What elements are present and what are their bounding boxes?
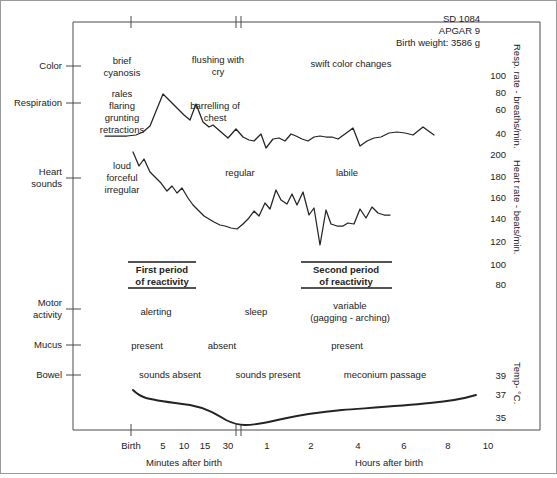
annotation-motor-sleep: sleep <box>245 306 268 318</box>
xtick-6-hr: 6 <box>401 440 406 452</box>
annotation-barrelling-of-chest-line1: barrelling of <box>190 100 240 112</box>
chart-canvas: SD 1084 APGAR 9 Birth weight: 3586 g Col… <box>0 0 557 478</box>
xtick-4-hr: 4 <box>355 440 360 452</box>
xtick-1-hr: 1 <box>264 440 269 452</box>
header-apgar: APGAR 9 <box>300 25 480 37</box>
temp-tick-35: 35 <box>478 412 506 424</box>
annotation-irregular: irregular <box>105 184 140 196</box>
annotation-swift-color-changes: swift color changes <box>311 58 392 70</box>
period-two-label-line1: Second period <box>313 264 379 276</box>
xaxis-caption-hours: Hours after birth <box>355 457 423 469</box>
resp-tick-100: 100 <box>478 70 506 82</box>
annotation-bowel-sounds-absent: sounds absent <box>139 369 201 381</box>
heart-tick-180: 180 <box>478 171 506 183</box>
annotation-brief-cyanosis-line2: cyanosis <box>104 67 141 79</box>
annotation-mucus-present-second: present <box>331 340 363 352</box>
temp-axis-title: Temp- °C. <box>512 362 523 404</box>
chart-vector-layer <box>0 0 557 478</box>
xtick-5-min: 5 <box>160 440 165 452</box>
heart-tick-200: 200 <box>478 149 506 161</box>
row-label-heart-sounds-line2: sounds <box>0 178 62 190</box>
annotation-forceful: forceful <box>106 172 137 184</box>
annotation-flushing-with-cry-line2: cry <box>212 66 225 78</box>
row-label-mucus: Mucus <box>0 339 62 351</box>
annotation-regular: regular <box>225 167 255 179</box>
heart-tick-100: 100 <box>478 259 506 271</box>
heart-rate-curve <box>133 152 390 245</box>
resp-axis-title: Resp. rate - breaths/min. <box>512 44 523 149</box>
xtick-15-min: 15 <box>200 440 211 452</box>
xtick-10-hr: 10 <box>483 440 494 452</box>
temperature-curve <box>133 390 476 425</box>
row-label-color: Color <box>0 60 62 72</box>
row-label-motor-activity-line2: activity <box>0 309 62 321</box>
annotation-bowel-sounds-present: sounds present <box>236 369 301 381</box>
row-label-heart-sounds-line1: Heart <box>0 166 62 178</box>
resp-tick-40: 40 <box>478 128 506 140</box>
xtick-2-hr: 2 <box>308 440 313 452</box>
annotation-bowel-meconium-passage: meconium passage <box>344 369 426 381</box>
annotation-mucus-absent: absent <box>208 340 237 352</box>
annotation-grunting: grunting <box>105 112 139 124</box>
annotation-motor-alerting: alerting <box>140 306 171 318</box>
period-one-label-line1: First period <box>136 264 188 276</box>
xtick-30-min: 30 <box>223 440 234 452</box>
page-border <box>1 1 557 474</box>
header-birth-weight: Birth weight: 3586 g <box>290 37 480 49</box>
resp-tick-80: 80 <box>478 87 506 99</box>
heart-tick-80: 80 <box>478 279 506 291</box>
annotation-flaring: flaring <box>109 100 135 112</box>
annotation-motor-variable-line2: (gagging - arching) <box>310 312 390 324</box>
annotation-loud: loud <box>113 160 131 172</box>
xaxis-caption-minutes: Minutes after birth <box>146 457 222 469</box>
xtick-8-hr: 8 <box>445 440 450 452</box>
period-two-label-line2: of reactivity <box>319 276 372 288</box>
temp-tick-39: 39 <box>478 370 506 382</box>
annotation-retractions: retractions <box>100 124 144 136</box>
row-label-motor-activity-line1: Motor <box>0 297 62 309</box>
header-subject-id: SD 1084 <box>300 13 480 25</box>
heart-tick-160: 160 <box>478 192 506 204</box>
annotation-barrelling-of-chest-line2: chest <box>204 112 227 124</box>
resp-tick-60: 60 <box>478 104 506 116</box>
annotation-rales: rales <box>112 88 133 100</box>
annotation-brief-cyanosis-line1: brief <box>113 55 131 67</box>
row-label-bowel: Bowel <box>0 369 62 381</box>
heart-tick-120: 120 <box>478 236 506 248</box>
annotation-motor-variable-line1: variable <box>333 300 366 312</box>
temp-tick-37: 37 <box>478 389 506 401</box>
annotation-mucus-present-first: present <box>131 340 163 352</box>
row-label-respiration: Respiration <box>0 97 62 109</box>
annotation-labile: labile <box>336 167 358 179</box>
annotation-flushing-with-cry-line1: flushing with <box>192 54 244 66</box>
respiration-curve <box>105 94 434 148</box>
heart-axis-title: Heart rate - beats/min. <box>512 160 523 255</box>
xtick-birth: Birth <box>121 440 141 452</box>
period-one-label-line2: of reactivity <box>135 276 188 288</box>
xtick-10-min: 10 <box>179 440 190 452</box>
heart-tick-140: 140 <box>478 213 506 225</box>
